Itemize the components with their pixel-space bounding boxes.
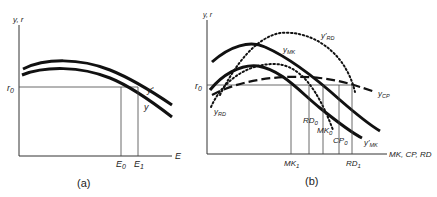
panel-b-x-axis-label: MK, CP, RD (389, 150, 432, 159)
panel-a: y, r E r0 y' y E0 E1 (a) (7, 15, 182, 189)
panel-b: y, r MK, CP, RD r0 yMK y'RD yCP yRD y'MK… (195, 11, 432, 187)
panel-b-label-y-mk-prime: y'MK (363, 138, 378, 148)
panel-b-tick-rd0: RD0 (303, 116, 319, 126)
panel-b-tick-cp0: CP0 (333, 136, 348, 146)
panel-a-label-y: y (143, 102, 149, 112)
panel-a-label-y-prime: y' (146, 85, 154, 95)
figure: y, r E r0 y' y E0 E1 (a) y, r MK, CP, RD… (0, 0, 437, 197)
panel-b-tick-mk1: MK1 (284, 159, 299, 169)
panel-a-tick-e1: E1 (134, 159, 144, 170)
panel-b-r0-label: r0 (195, 81, 202, 92)
panel-b-caption: (b) (305, 175, 318, 187)
panel-b-tick-rd1: RD1 (346, 159, 361, 169)
panel-a-curve-y-prime (23, 61, 172, 105)
panel-b-label-y-rd-prime: y'RD (320, 31, 335, 41)
panel-b-tick-mk0: MK0 (317, 126, 333, 136)
panel-a-r0-label: r0 (7, 83, 14, 94)
panel-b-y-axis-label: y, r (202, 11, 213, 19)
panel-a-y-axis-label: y, r (12, 15, 24, 24)
panel-a-caption: (a) (77, 177, 90, 189)
panel-b-label-y-cp: yCP (377, 89, 390, 99)
panel-a-tick-e0: E0 (116, 159, 126, 170)
panel-b-curve-y-rd-prime (220, 33, 355, 95)
panel-b-label-y-mk: yMK (282, 45, 296, 55)
panel-a-x-axis-label: E (175, 151, 182, 161)
panel-b-label-y-rd: yRD (213, 107, 226, 117)
